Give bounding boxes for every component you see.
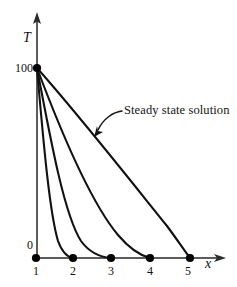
y-tick-label-100: 100 [7,62,33,74]
plot-canvas [0,0,237,287]
annotation-leader-arrow [94,111,122,137]
marker-dot [107,254,115,262]
x-tick-label-2: 2 [65,265,81,277]
y-axis-label: T [23,31,31,45]
solution-curves [37,68,190,258]
x-axis [33,254,226,262]
marker-dot [186,254,194,262]
x-tick-label-1: 1 [28,265,44,277]
marker-dot [33,64,41,72]
x-tick-label-4: 4 [142,265,158,277]
steady-state-annotation-label: Steady state solution [124,104,230,117]
marker-dot [32,254,40,262]
x-axis-label: x [205,257,211,271]
curve-x4 [37,68,150,258]
y-axis [33,12,41,260]
marker-dot [146,254,154,262]
marker-dot [69,254,77,262]
x-tick-label-3: 3 [103,265,119,277]
y-tick-label-0: 0 [7,239,33,251]
x-tick-label-5: 5 [180,265,196,277]
steady-state-temperature-figure: T x 100 0 1 2 3 4 5 Steady state solutio… [0,0,237,287]
